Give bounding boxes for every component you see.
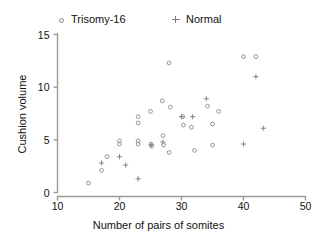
data-point-marker — [211, 122, 215, 126]
data-point-marker — [136, 115, 140, 119]
legend-label-normal: Normal — [186, 13, 221, 25]
data-point-marker — [87, 181, 91, 185]
data-point-marker — [193, 148, 197, 152]
y-axis-title: Cushion volume — [16, 44, 28, 184]
x-tick-label: 30 — [176, 200, 188, 212]
data-point-marker — [261, 126, 266, 131]
data-point-marker — [190, 114, 195, 119]
data-point-marker — [136, 121, 140, 125]
y-tick-label: 15 — [28, 29, 50, 41]
data-point-marker — [204, 96, 209, 101]
data-point-marker — [167, 151, 171, 155]
data-point-marker — [123, 163, 128, 168]
data-point-marker — [162, 143, 166, 147]
x-tick-label: 20 — [114, 200, 126, 212]
data-point-marker — [211, 143, 215, 147]
data-point-marker — [160, 99, 164, 103]
legend-item-trisomy-16: Trisomy-16 — [57, 11, 126, 27]
open-circle-marker-icon — [57, 15, 66, 24]
x-tick-label: 50 — [300, 200, 312, 212]
data-point-marker — [149, 109, 153, 113]
data-point-marker — [105, 155, 109, 159]
x-tick-label: 10 — [52, 200, 64, 212]
data-point-marker — [168, 105, 172, 109]
y-tick-label: 5 — [28, 134, 50, 146]
data-point-marker — [136, 176, 141, 181]
data-point-marker — [99, 160, 104, 165]
data-point-marker — [253, 74, 258, 79]
x-tick-label: 40 — [238, 200, 250, 212]
scatter-plot-figure: Trisomy-16 Normal Number of pairs of som… — [0, 0, 317, 240]
data-point-marker — [117, 154, 122, 159]
data-point-marker — [100, 168, 104, 172]
data-point-marker — [206, 104, 210, 108]
data-point-marker — [254, 55, 258, 59]
y-tick-label: 0 — [28, 187, 50, 199]
x-axis-title: Number of pairs of somites — [0, 219, 317, 231]
data-point-marker — [242, 55, 246, 59]
data-point-marker — [190, 125, 194, 129]
y-tick-label: 10 — [28, 81, 50, 93]
data-point-marker — [217, 109, 221, 113]
series-trisomy-16-markers — [87, 55, 258, 185]
legend-item-normal: Normal — [172, 11, 221, 27]
data-point-marker — [241, 141, 246, 146]
legend-label-trisomy-16: Trisomy-16 — [71, 13, 126, 25]
data-point-marker — [161, 134, 165, 138]
series-normal-markers — [99, 74, 266, 181]
data-point-marker — [181, 123, 185, 127]
plus-marker-icon — [172, 15, 181, 24]
data-point-marker — [167, 61, 171, 65]
